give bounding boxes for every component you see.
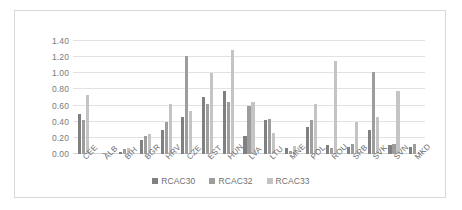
y-axis-tick-label: 1.00 [52, 68, 69, 78]
bar-group [342, 41, 363, 154]
bar-group [239, 41, 260, 154]
bar[interactable] [165, 122, 168, 154]
bar[interactable] [231, 50, 234, 154]
legend-label: RCAC33 [276, 176, 310, 186]
bar-group [404, 41, 425, 154]
bar-group [114, 41, 135, 154]
bar[interactable] [310, 120, 313, 154]
bar-group [363, 41, 384, 154]
legend-item[interactable]: RCAC33 [267, 176, 310, 186]
y-axis-tick-label: 0.20 [52, 133, 69, 143]
y-axis-tick-label: 0.00 [52, 149, 69, 159]
bar[interactable] [161, 130, 164, 154]
bar[interactable] [247, 106, 250, 154]
bar[interactable] [223, 91, 226, 154]
legend-label: RCAC30 [161, 176, 195, 186]
legend-item[interactable]: RCAC32 [209, 176, 252, 186]
y-axis-tick-label: 0.60 [52, 101, 69, 111]
bar-group [280, 41, 301, 154]
bar[interactable] [285, 148, 288, 154]
bar[interactable] [86, 95, 89, 154]
bar-group [73, 41, 94, 154]
bar[interactable] [372, 72, 375, 154]
plot-area [73, 41, 425, 154]
bar-group [321, 41, 342, 154]
bars-layer [73, 41, 425, 154]
y-axis: 0.000.200.400.600.801.001.201.40 [33, 41, 69, 154]
bar[interactable] [82, 120, 85, 154]
chart-container: 0.000.200.400.600.801.001.201.40 CEEALBB… [14, 10, 446, 198]
bar[interactable] [243, 136, 246, 154]
bar-group [94, 41, 115, 154]
legend-swatch-icon [267, 178, 273, 184]
bar-group [135, 41, 156, 154]
bar[interactable] [140, 140, 143, 154]
bar[interactable] [185, 56, 188, 154]
bar[interactable] [306, 127, 309, 154]
y-axis-tick-label: 1.40 [52, 36, 69, 46]
legend-label: RCAC32 [218, 176, 252, 186]
bar-group [301, 41, 322, 154]
bar[interactable] [227, 102, 230, 154]
legend-swatch-icon [209, 178, 215, 184]
bar-group [197, 41, 218, 154]
y-axis-tick-label: 0.40 [52, 117, 69, 127]
y-axis-tick-label: 1.20 [52, 52, 69, 62]
bar[interactable] [119, 152, 122, 154]
bar-group [218, 41, 239, 154]
chart-legend: RCAC30RCAC32RCAC33 [15, 176, 447, 186]
bar[interactable] [334, 61, 337, 154]
bar-group [259, 41, 280, 154]
bar[interactable] [268, 119, 271, 154]
bar[interactable] [78, 114, 81, 154]
bar[interactable] [264, 120, 267, 154]
y-axis-tick-label: 0.80 [52, 84, 69, 94]
bar-group [156, 41, 177, 154]
bar[interactable] [210, 73, 213, 154]
legend-item[interactable]: RCAC30 [152, 176, 195, 186]
bar[interactable] [202, 97, 205, 154]
bar[interactable] [396, 91, 399, 154]
bar-group [384, 41, 405, 154]
legend-swatch-icon [152, 178, 158, 184]
bar-group [177, 41, 198, 154]
bar[interactable] [206, 104, 209, 154]
